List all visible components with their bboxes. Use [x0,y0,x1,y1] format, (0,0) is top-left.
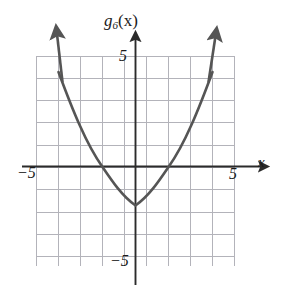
function-name: g [104,11,113,30]
coordinate-plane-svg [0,0,290,294]
x-axis-label: x [258,155,265,170]
y-tick-label-negative-5: −5 [110,253,129,269]
graph-figure: g6(x) x −5 5 5 −5 [0,0,290,294]
function-label: g6(x) [104,12,138,31]
function-argument: (x) [118,11,138,30]
x-tick-label-positive-5: 5 [229,166,237,182]
y-tick-label-positive-5: 5 [119,48,127,64]
x-tick-label-negative-5: −5 [17,165,36,181]
